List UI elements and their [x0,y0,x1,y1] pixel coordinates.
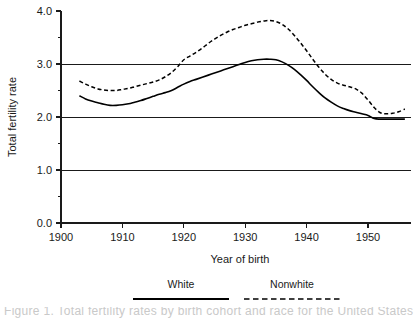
x-tick-label-1940: 1940 [294,231,318,243]
series-line-nonwhite [79,21,404,114]
figure-caption-cutoff: Figure 1. Total fertility rates by birth… [0,307,416,318]
data-series [79,21,404,120]
x-tick-label-1950: 1950 [356,231,380,243]
x-tick-label-1900: 1900 [49,231,73,243]
legend: WhiteNonwhite [133,278,340,299]
legend-label-nonwhite: Nonwhite [270,278,314,290]
y-tick-label-4.0: 4.0 [37,5,52,17]
x-tick-label-1930: 1930 [233,231,257,243]
x-tick-label-1920: 1920 [172,231,196,243]
gridlines [61,64,411,170]
line-chart: 0.01.02.03.04.0 190019101920193019401950… [0,0,416,318]
figure-container: 0.01.02.03.04.0 190019101920193019401950… [0,0,416,318]
y-tick-label-1.0: 1.0 [37,164,52,176]
x-axis-title: Year of birth [211,253,270,265]
y-tick-label-3.0: 3.0 [37,58,52,70]
legend-label-white: White [168,278,195,290]
y-tick-label-2.0: 2.0 [37,111,52,123]
x-axis-ticks: 190019101920193019401950 [49,223,381,243]
y-axis-title: Total fertility rate [6,77,18,157]
caption-text: Figure 1. Total fertility rates by birth… [0,307,416,318]
y-axis-ticks: 0.01.02.03.04.0 [37,5,61,229]
x-tick-label-1910: 1910 [110,231,134,243]
y-tick-label-0.0: 0.0 [37,217,52,229]
